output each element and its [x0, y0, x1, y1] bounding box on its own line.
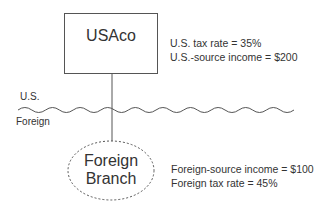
foreign-region-label: Foreign [16, 117, 50, 127]
foreign-branch-label-line1: Foreign [71, 152, 151, 170]
country-border-wave [18, 108, 294, 113]
foreign-branch-label: Foreign Branch [71, 152, 151, 188]
foreign-source-income: Foreign-source income = $100 [171, 162, 314, 176]
us-region-label: U.S. [20, 92, 39, 102]
foreign-branch-label-line2: Branch [71, 170, 151, 188]
usaco-label: USAco [79, 28, 143, 44]
us-tax-rate: U.S. tax rate = 35% [170, 36, 298, 50]
foreign-tax-rate: Foreign tax rate = 45% [171, 176, 314, 190]
us-source-income: U.S.-source income = $200 [170, 50, 298, 64]
branch-details: Foreign-source income = $100 Foreign tax… [171, 162, 314, 190]
usaco-details: U.S. tax rate = 35% U.S.-source income =… [170, 36, 298, 64]
